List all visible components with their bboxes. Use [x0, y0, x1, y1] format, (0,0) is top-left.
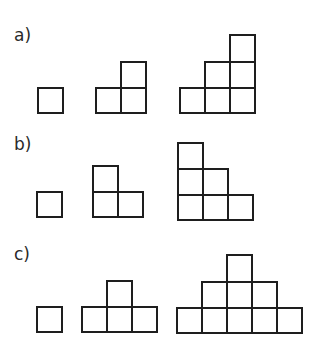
square-cell	[251, 307, 278, 334]
square-cell	[120, 61, 147, 89]
square-cell	[276, 307, 303, 334]
square-cell	[81, 306, 108, 333]
square-cell	[202, 168, 229, 196]
square-cell	[177, 168, 204, 196]
square-cell	[226, 281, 253, 309]
square-cell	[36, 191, 63, 218]
square-cell	[176, 307, 203, 334]
square-cell	[226, 307, 253, 334]
square-cell	[201, 281, 228, 309]
row-label-c: c)	[14, 246, 30, 263]
square-cell	[37, 87, 64, 114]
square-cell	[251, 281, 278, 309]
row-label-a: a)	[14, 27, 31, 44]
square-cell	[177, 194, 204, 221]
square-cell	[36, 306, 63, 333]
square-cell	[229, 61, 256, 89]
row-label-b: b)	[14, 136, 31, 153]
square-cell	[92, 191, 119, 218]
square-cell	[177, 142, 204, 170]
square-cell	[204, 61, 231, 89]
square-cell	[204, 87, 231, 114]
square-cell	[202, 194, 229, 221]
square-cell	[229, 34, 256, 63]
square-cell	[229, 87, 256, 114]
square-cell	[92, 165, 119, 193]
square-cell	[226, 254, 253, 283]
square-cell	[106, 280, 133, 308]
square-cell	[179, 87, 206, 114]
square-cell	[120, 87, 147, 114]
square-cell	[131, 306, 158, 333]
square-cell	[227, 194, 254, 221]
square-cell	[95, 87, 122, 114]
square-cell	[117, 191, 144, 218]
square-cell	[201, 307, 228, 334]
square-cell	[106, 306, 133, 333]
